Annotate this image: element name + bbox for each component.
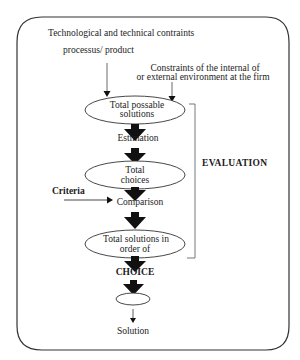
node1-line2: solutions: [120, 109, 154, 119]
evaluation-bracket: [187, 104, 195, 258]
solution-label: Solution: [117, 326, 149, 336]
flow-arrow-4: [124, 212, 146, 229]
env-constraint-arrow: [169, 82, 176, 102]
node3-line1: Total solutions in: [103, 234, 169, 244]
criteria-label: Criteria: [52, 186, 85, 196]
node2-line2: choices: [121, 175, 150, 185]
criteria-arrow: [64, 197, 113, 204]
tech-subject-label: processus/ product: [63, 45, 134, 55]
diagram-canvas: [0, 0, 300, 360]
env-constraints-line2: or external environment at the firm: [136, 72, 269, 82]
choice-label: CHOICE: [116, 267, 155, 277]
evaluation-label: EVALUATION: [202, 158, 267, 168]
comparison-label: Comparison: [117, 197, 163, 207]
estimation-label: Estimation: [117, 133, 158, 143]
node2-line1: Total: [125, 165, 144, 175]
node-final-choice: [116, 293, 150, 305]
tech-constraint-arrow: [104, 63, 111, 97]
solution-arrow: [130, 309, 136, 323]
node3-line2: order of: [120, 244, 150, 254]
tech-constraints-label: Technological and technical contraints: [48, 28, 194, 38]
